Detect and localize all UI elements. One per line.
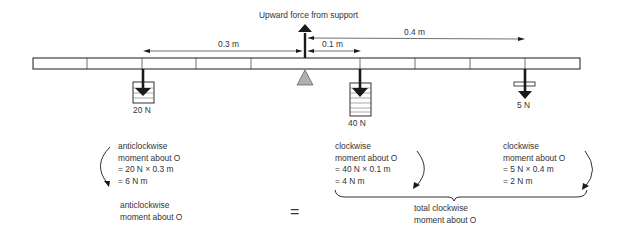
summary-total-clockwise: total clockwise moment about O <box>414 203 476 226</box>
clockwise-moment-block-2: clockwise moment about O = 5 N × 0.4 m =… <box>503 141 565 187</box>
summary-right-line: moment about O <box>414 215 476 227</box>
weight-20n-icon <box>133 69 154 103</box>
equals-sign: = <box>290 203 299 221</box>
clockwise-arrow-icon-1 <box>413 151 424 189</box>
weight-5n-label: 5 N <box>517 100 530 112</box>
beam <box>33 58 580 69</box>
summary-right-line: total clockwise <box>414 203 476 215</box>
distance-0-3m-label: 0.3 m <box>218 39 239 51</box>
weight-5n-icon <box>514 69 535 99</box>
clockwise-moment-block-1: clockwise moment about O = 40 N × 0.1 m … <box>335 141 397 187</box>
summary-left-line: moment about O <box>120 212 182 224</box>
clockwise-line: = 40 N × 0.1 m <box>335 164 397 176</box>
clockwise-line: moment about O <box>335 153 397 165</box>
upward-force-arrow-icon <box>298 24 312 58</box>
distance-0-1m-label: 0.1 m <box>322 39 343 51</box>
anticlockwise-line: = 20 N × 0.3 m <box>118 164 180 176</box>
clockwise-line: = 4 N m <box>335 176 397 188</box>
summary-anticlockwise: anticlockwise moment about O <box>120 200 182 223</box>
weight-40n-label: 40 N <box>348 118 366 130</box>
anticlockwise-arrow-icon <box>100 147 110 187</box>
anticlockwise-line: moment about O <box>118 153 180 165</box>
clockwise-arrow-icon-2 <box>582 151 593 190</box>
clockwise-line: = 2 N m <box>503 176 565 188</box>
anticlockwise-line: = 6 N m <box>118 176 180 188</box>
distance-0-4m-label: 0.4 m <box>404 27 425 39</box>
clockwise-line: moment about O <box>503 153 565 165</box>
clockwise-line: clockwise <box>335 141 397 153</box>
clockwise-line: = 5 N × 0.4 m <box>503 164 565 176</box>
anticlockwise-moment-block: anticlockwise moment about O = 20 N × 0.… <box>118 141 180 187</box>
summary-left-line: anticlockwise <box>120 200 182 212</box>
pivot-triangle-icon <box>297 70 313 85</box>
anticlockwise-line: anticlockwise <box>118 141 180 153</box>
weight-20n-label: 20 N <box>133 105 151 117</box>
clockwise-line: clockwise <box>503 141 565 153</box>
moments-diagram <box>0 0 621 236</box>
upward-force-label: Upward force from support <box>259 10 358 22</box>
weight-40n-icon <box>350 69 371 116</box>
total-brace <box>335 190 587 201</box>
